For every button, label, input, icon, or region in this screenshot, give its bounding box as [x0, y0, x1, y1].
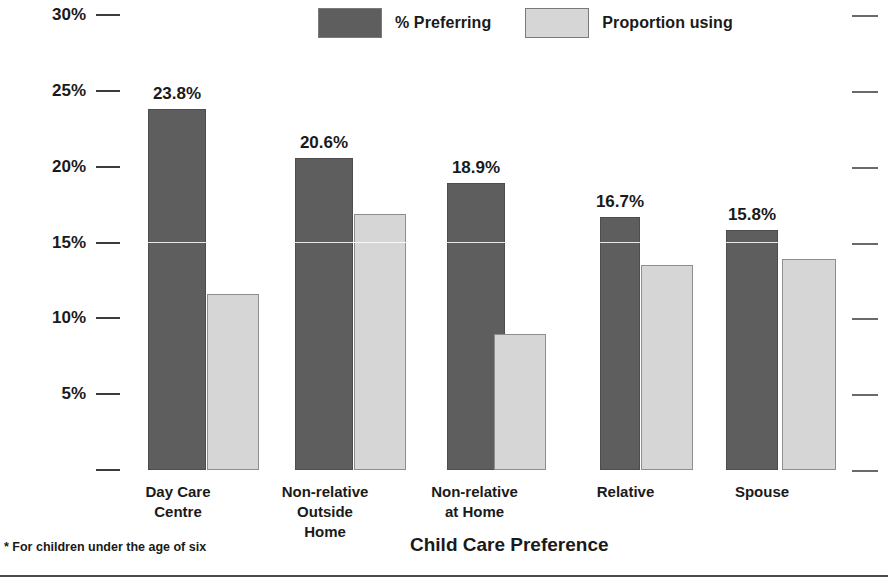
x-axis-category-label-1: Non-relativeOutside Home [275, 482, 375, 542]
bar-dark-1 [295, 158, 353, 470]
plot-area: 5%10%15%20%25%30%23.8%20.6%18.9%16.7%15.… [0, 0, 888, 586]
y-axis-tick-mark [96, 469, 120, 471]
y-axis-right-tick-30 [852, 15, 878, 17]
y-axis-tick-mark [96, 242, 120, 244]
y-axis-tick-label: 15% [52, 233, 86, 253]
y-axis-tick-15: 15% [0, 234, 120, 252]
y-axis-tick-5: 5% [0, 385, 120, 403]
x-axis-category-label-2: Non-relativeat Home [422, 482, 527, 522]
y-axis-tick-30: 30% [0, 6, 120, 24]
bar-dark-4 [726, 230, 778, 470]
bar-chart: % Preferring Proportion using 5%10%15%20… [0, 0, 888, 586]
x-axis-category-label-4: Spouse [712, 482, 812, 502]
x-axis-category-label-3: Relative [578, 482, 673, 502]
y-axis-right-tick-25 [852, 91, 878, 93]
y-axis-tick-label: 10% [52, 308, 86, 328]
bar-light-1 [354, 214, 406, 470]
bar-value-label-2: 18.9% [433, 158, 519, 178]
category-label-line: Day Care Centre [128, 482, 228, 522]
y-axis-tick-label: 5% [61, 384, 86, 404]
bar-dark-3 [600, 217, 640, 470]
bar-value-label-0: 23.8% [134, 84, 220, 104]
y-axis-tick-label: 30% [52, 5, 86, 25]
bar-light-2 [494, 334, 546, 471]
y-axis-right-tick-10 [852, 318, 878, 320]
bottom-divider [0, 575, 888, 577]
y-axis-tick-0 [0, 461, 120, 479]
y-axis-tick-label: 20% [52, 157, 86, 177]
bar-value-label-1: 20.6% [281, 133, 367, 153]
y-axis-tick-mark [96, 166, 120, 168]
x-axis-category-label-0: Day Care Centre [128, 482, 228, 522]
bar-dark-0 [148, 109, 206, 470]
y-axis-right-tick-0 [852, 470, 878, 472]
y-axis-tick-mark [96, 90, 120, 92]
category-label-line: at Home [422, 502, 527, 522]
y-axis-tick-20: 20% [0, 158, 120, 176]
y-axis-tick-mark [96, 14, 120, 16]
category-label-line: Non-relative [275, 482, 375, 502]
y-axis-tick-10: 10% [0, 309, 120, 327]
bar-value-label-4: 15.8% [712, 205, 792, 225]
bar-light-4 [782, 259, 836, 470]
y-axis-right-tick-5 [852, 394, 878, 396]
category-label-line: Outside Home [275, 502, 375, 542]
bar-light-0 [207, 294, 259, 470]
x-axis-title: Child Care Preference [410, 534, 609, 556]
y-axis-tick-label: 25% [52, 81, 86, 101]
y-axis-tick-mark [96, 393, 120, 395]
bar-light-3 [641, 265, 693, 470]
category-label-line: Relative [578, 482, 673, 502]
chart-footnote: * For children under the age of six [4, 540, 206, 554]
category-label-line: Non-relative [422, 482, 527, 502]
bar-value-label-3: 16.7% [586, 192, 654, 212]
scan-artifact-line [130, 242, 875, 243]
category-label-line: Spouse [712, 482, 812, 502]
y-axis-right-tick-20 [852, 167, 878, 169]
y-axis-tick-mark [96, 317, 120, 319]
y-axis-tick-25: 25% [0, 82, 120, 100]
